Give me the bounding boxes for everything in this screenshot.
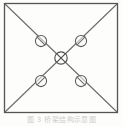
schematic-diagram [0, 0, 123, 126]
figure-container: 图 3 桥架结构示意图 [0, 0, 123, 126]
figure-caption: 图 3 桥架结构示意图 [0, 114, 123, 126]
